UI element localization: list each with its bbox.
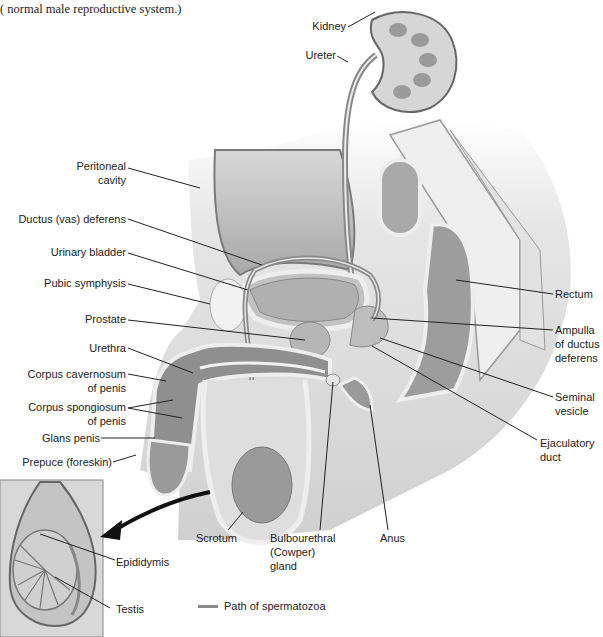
label-peritoneal-cavity-line1: Peritoneal	[40, 160, 126, 173]
figure-caption: ( normal male reproductive system.)	[0, 2, 182, 17]
label-corpus-cavernosum-line1: Corpus cavernosum	[0, 368, 126, 381]
testis-inset	[0, 480, 103, 637]
pubic-symphysis-shape	[210, 279, 246, 331]
label-kidney: Kidney	[300, 20, 346, 33]
label-ductus-deferens: Ductus (vas) deferens	[0, 213, 126, 226]
label-ureter: Ureter	[290, 49, 336, 62]
label-prostate: Prostate	[0, 313, 126, 326]
label-corpus-spongiosum-line1: Corpus spongiosum	[0, 401, 126, 414]
label-rectum: Rectum	[555, 288, 593, 301]
label-prepuce: Prepuce (foreskin)	[0, 456, 112, 469]
label-urethra: Urethra	[0, 342, 126, 355]
label-urinary-bladder: Urinary bladder	[0, 246, 126, 259]
label-pubic-symphysis: Pubic symphysis	[0, 277, 126, 290]
path-swatch	[198, 605, 218, 608]
label-scrotum: Scrotum	[196, 532, 237, 545]
label-epididymis: Epididymis	[116, 556, 169, 569]
label-seminal-vesicle-line1: Seminal	[555, 391, 595, 404]
legend-label: Path of spermatozoa	[224, 600, 326, 612]
label-seminal-vesicle-line2: vesicle	[555, 405, 589, 418]
label-ejaculatory-duct-line2: duct	[540, 451, 561, 464]
testis-shape	[232, 447, 292, 523]
label-ampulla-line1: Ampulla	[555, 324, 595, 337]
label-glans-penis: Glans penis	[0, 432, 100, 445]
label-bulbourethral-line1: Bulbourethral	[270, 532, 335, 545]
label-bulbourethral-line2: (Cowper)	[270, 546, 315, 559]
label-peritoneal-cavity-line2: cavity	[40, 174, 126, 187]
scrotum-shape	[203, 380, 309, 543]
label-bulbourethral-line3: gland	[270, 560, 297, 573]
label-anus: Anus	[380, 532, 405, 545]
label-corpus-cavernosum-line2: of penis	[0, 382, 126, 395]
label-testis: Testis	[116, 603, 144, 616]
label-ampulla-line2: of ductus	[555, 338, 600, 351]
label-ampulla-line3: deferens	[555, 352, 598, 365]
label-ejaculatory-duct-line1: Ejaculatory	[540, 437, 594, 450]
label-corpus-spongiosum-line2: of penis	[0, 415, 126, 428]
legend: Path of spermatozoa	[198, 600, 326, 612]
colon-loop	[380, 160, 420, 235]
male-reproductive-diagram: ( normal male reproductive system.) Kidn…	[0, 0, 603, 637]
kidney-shape	[371, 12, 457, 112]
